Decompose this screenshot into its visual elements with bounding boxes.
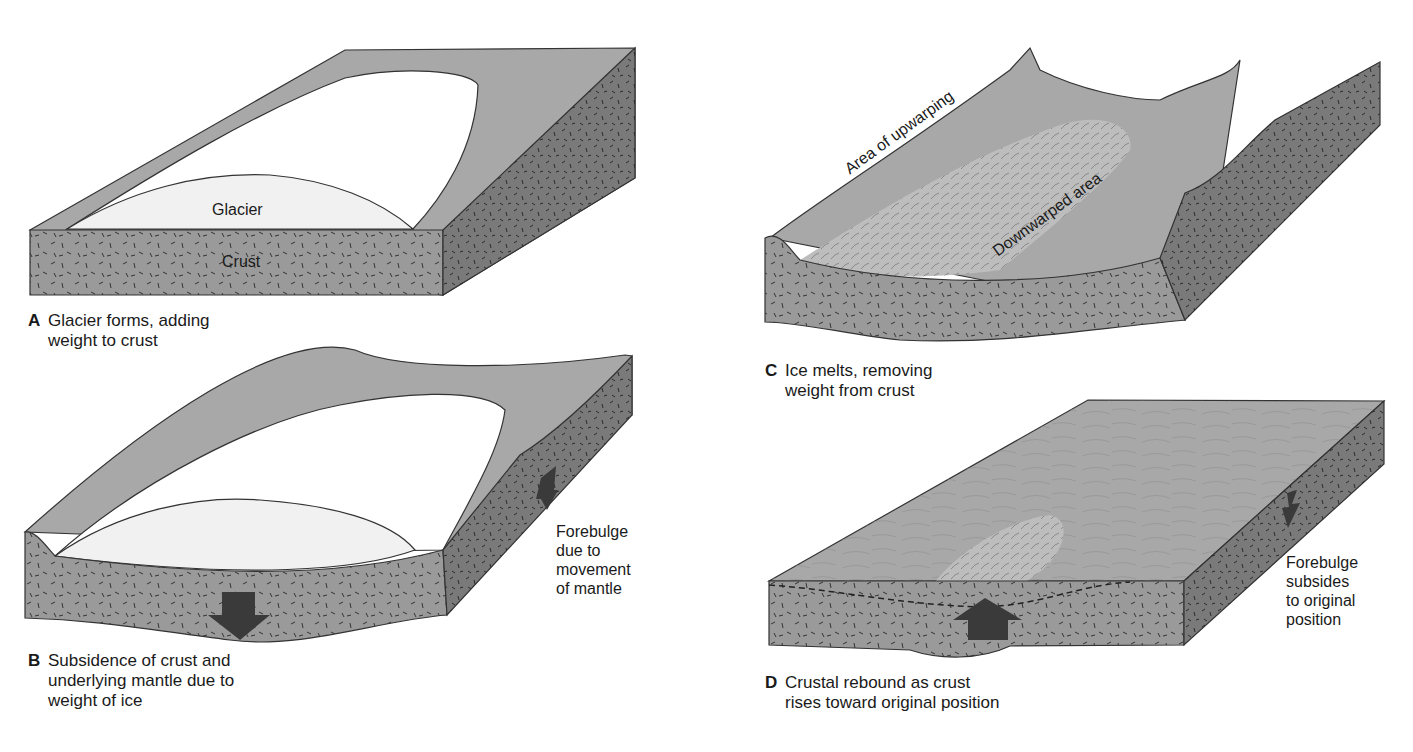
- forebulge-b-line1: Forebulge: [556, 522, 631, 541]
- forebulge-b-line3: movement: [556, 560, 631, 579]
- panel-c-caption-line2: weight from crust: [765, 381, 932, 401]
- glacier-label: Glacier: [212, 200, 263, 219]
- forebulge-b-label: Forebulge due to movement of mantle: [556, 522, 631, 598]
- panel-c-caption-line1: Ice melts, removing: [785, 361, 932, 380]
- panel-d-caption: DCrustal rebound as crust rises toward o…: [765, 673, 1000, 713]
- forebulge-d-label: Forebulge subsides to original position: [1286, 553, 1358, 629]
- crust-label: Crust: [222, 252, 260, 271]
- panel-b-caption: BSubsidence of crust and underlying mant…: [28, 651, 234, 711]
- panel-a-block: [30, 48, 635, 295]
- panel-d-letter: D: [765, 673, 785, 693]
- panel-d-caption-line2: rises toward original position: [765, 693, 1000, 713]
- forebulge-d-line4: position: [1286, 610, 1358, 629]
- panel-d-caption-line1: Crustal rebound as crust: [785, 673, 970, 692]
- forebulge-d-line3: to original: [1286, 591, 1358, 610]
- forebulge-b-line2: due to: [556, 541, 631, 560]
- panel-a-letter: A: [28, 311, 48, 331]
- panel-b-letter: B: [28, 651, 48, 671]
- panel-a-caption: AGlacier forms, adding weight to crust: [28, 311, 210, 351]
- forebulge-b-line4: of mantle: [556, 579, 631, 598]
- forebulge-d-line2: subsides: [1286, 572, 1358, 591]
- panel-a-caption-line1: Glacier forms, adding: [48, 311, 210, 330]
- forebulge-d-line1: Forebulge: [1286, 553, 1358, 572]
- glacial-rebound-diagram: [0, 0, 1413, 752]
- panel-c-caption: CIce melts, removing weight from crust: [765, 361, 932, 401]
- panel-b-caption-line3: weight of ice: [28, 691, 234, 711]
- panel-a-caption-line2: weight to crust: [28, 331, 210, 351]
- panel-b-caption-line1: Subsidence of crust and: [48, 651, 230, 670]
- panel-c-letter: C: [765, 361, 785, 381]
- panel-b-caption-line2: underlying mantle due to: [28, 671, 234, 691]
